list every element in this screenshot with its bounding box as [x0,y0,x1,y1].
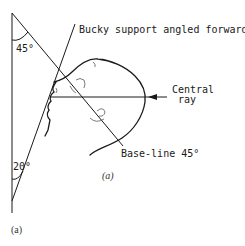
arrowhead-icon [148,94,157,100]
figure-caption: (a) [11,224,22,236]
bucky-label: Bucky support angled forward [79,24,245,35]
subfigure-label: (a) [102,170,114,182]
central-ray-label-line2: ray [178,94,196,105]
baseline-label: Base-line 45° [121,148,199,159]
angle-20-label: 20° [13,161,31,172]
skull-positioning-diagram: Bucky support angled forward Central ray… [0,0,245,246]
patient-head-outline [45,59,145,155]
angle-arc-45 [12,32,28,40]
angle-45-label: 45° [16,43,34,54]
diagram-canvas: Bucky support angled forward Central ray… [0,0,245,246]
